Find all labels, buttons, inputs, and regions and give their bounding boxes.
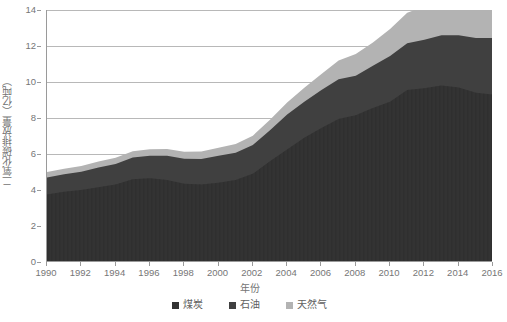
x-axis-tick-mark <box>320 262 321 266</box>
y-axis-tick-label: 12 <box>0 41 36 51</box>
x-axis-tick-mark <box>218 262 219 266</box>
x-axis-tick-mark <box>46 262 47 266</box>
x-axis-tick-mark <box>115 262 116 266</box>
x-axis-tick-mark <box>286 262 287 266</box>
x-axis-tick-mark <box>252 262 253 266</box>
y-axis-tick-mark <box>37 262 41 263</box>
y-axis-tick-mark <box>37 10 41 11</box>
legend-swatch-icon <box>286 302 293 309</box>
legend-item-煤炭: 煤炭 <box>172 300 203 310</box>
x-axis-tick-mark <box>458 262 459 266</box>
y-axis-ticks: 02468101214 <box>0 10 41 262</box>
y-axis-tick-label: 6 <box>0 149 36 159</box>
y-axis-tick-mark <box>37 154 41 155</box>
legend-label: 天然气 <box>297 300 327 310</box>
y-axis-tick-mark <box>37 226 41 227</box>
y-axis-tick-label: 10 <box>0 77 36 87</box>
y-axis-tick-mark <box>37 118 41 119</box>
chart-legend: 煤炭石油天然气 <box>0 300 499 310</box>
x-axis-tick-mark <box>355 262 356 266</box>
x-axis-tick-mark <box>389 262 390 266</box>
legend-label: 石油 <box>240 300 260 310</box>
plot-area <box>46 10 492 262</box>
y-axis-tick-label: 0 <box>0 257 36 267</box>
y-axis-tick-label: 4 <box>0 185 36 195</box>
y-axis-tick-label: 14 <box>0 5 36 15</box>
x-axis-title: 年份 <box>0 280 499 295</box>
x-axis-ticks: 1990199219941996199820002002200420062008… <box>46 262 492 280</box>
legend-swatch-icon <box>172 302 179 309</box>
x-axis-tick-mark <box>492 262 493 266</box>
y-axis-tick-label: 2 <box>0 221 36 231</box>
x-axis-tick-mark <box>80 262 81 266</box>
x-axis-tick-mark <box>149 262 150 266</box>
legend-item-天然气: 天然气 <box>286 300 327 310</box>
stacked-area-series <box>47 10 492 262</box>
y-axis-tick-mark <box>37 46 41 47</box>
x-axis-tick-label: 2016 <box>472 267 507 278</box>
legend-label: 煤炭 <box>183 300 203 310</box>
x-axis-tick-mark <box>423 262 424 266</box>
y-axis-tick-label: 8 <box>0 113 36 123</box>
x-axis-tick-mark <box>183 262 184 266</box>
legend-swatch-icon <box>229 302 236 309</box>
legend-item-石油: 石油 <box>229 300 260 310</box>
y-axis-tick-mark <box>37 190 41 191</box>
y-axis-tick-mark <box>37 82 41 83</box>
